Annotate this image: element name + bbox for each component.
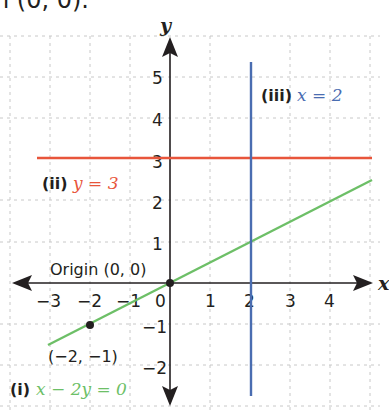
x-tick: −3 [36, 291, 61, 311]
label-line-iii: (iii) x = 2 [261, 85, 342, 105]
y-tick: −1 [142, 317, 167, 337]
x-tick-labels: −3 −2 −1 0 1 2 3 4 [36, 291, 335, 311]
y-tick-labels: 5 4 3 2 1 −1 −2 [142, 68, 167, 378]
y-tick: −2 [142, 358, 167, 378]
origin-point [166, 279, 174, 287]
x-axis-label: x [377, 272, 389, 294]
origin-label: Origin (0, 0) [50, 260, 146, 279]
y-tick: 1 [152, 234, 163, 254]
x-tick: 4 [324, 291, 335, 311]
line-iii-tag: (iii) [261, 86, 292, 105]
y-axis-label: y [159, 14, 173, 36]
x-tick: 3 [285, 291, 296, 311]
y-tick: 2 [152, 193, 163, 213]
coordinate-graph: x y −3 −2 −1 0 1 2 3 4 5 4 3 2 1 −1 −2 O… [0, 0, 389, 410]
point-minus2-minus1 [86, 321, 94, 329]
line-ii-tag: (ii) [42, 174, 68, 193]
x-tick: 2 [244, 291, 255, 311]
line-iii-equation: x = 2 [297, 85, 342, 105]
label-line-ii: (ii) y = 3 [42, 173, 118, 193]
y-tick: 3 [152, 152, 163, 172]
x-tick: 0 [155, 291, 166, 311]
y-tick: 4 [152, 110, 163, 130]
line-i-tag: (i) [10, 380, 30, 399]
x-tick: −2 [77, 291, 102, 311]
line-i-equation: x − 2y = 0 [36, 379, 127, 399]
point-label: (−2, −1) [48, 347, 118, 366]
y-axis [162, 37, 178, 406]
label-line-i: (i) x − 2y = 0 [10, 379, 127, 399]
line-ii-equation: y = 3 [72, 173, 118, 193]
y-tick: 5 [152, 68, 163, 88]
x-tick: 1 [205, 291, 216, 311]
